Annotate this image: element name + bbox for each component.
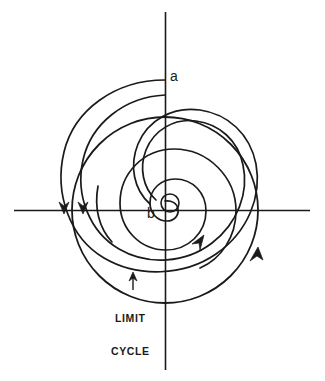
label-limit-cycle-line2: CYCLE [111, 346, 150, 357]
flow-arrow-inner-spiral-icon [192, 235, 204, 250]
axes-group [14, 12, 310, 370]
label-point-b: b [147, 206, 155, 221]
flow-arrow-right-outer-icon [250, 247, 263, 261]
outer-spiral-trajectory-2 [81, 95, 245, 260]
limit-cycle-pointer [129, 272, 137, 290]
outer-spiral-tail-stroke [97, 186, 112, 242]
origin-small-circle [161, 194, 179, 212]
label-limit-cycle: LIMIT CYCLE [111, 291, 150, 379]
phase-plane-canvas [0, 0, 325, 381]
phase-plane-figure: a b LIMIT CYCLE [0, 0, 325, 381]
label-limit-cycle-line1: LIMIT [111, 313, 150, 324]
label-point-a: a [170, 69, 178, 84]
